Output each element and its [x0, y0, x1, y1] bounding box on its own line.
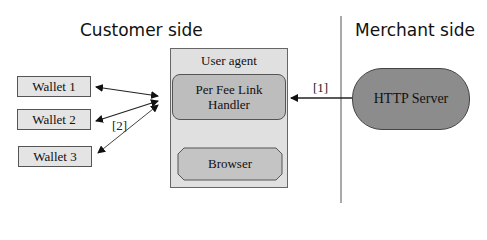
browser-label: Browser: [178, 148, 282, 180]
wallet-2: Wallet 2: [17, 109, 91, 130]
wallet-3: Wallet 3: [18, 146, 92, 167]
wallet-1: Wallet 1: [17, 76, 91, 97]
edge-label-1: [1]: [313, 80, 328, 96]
handler-label: Per Fee Link Handler: [189, 82, 269, 112]
per-fee-link-handler: Per Fee Link Handler: [172, 74, 286, 120]
edge-label-2: [2]: [112, 118, 127, 134]
http-server: HTTP Server: [352, 68, 470, 130]
user-agent-label: User agent: [171, 53, 287, 69]
